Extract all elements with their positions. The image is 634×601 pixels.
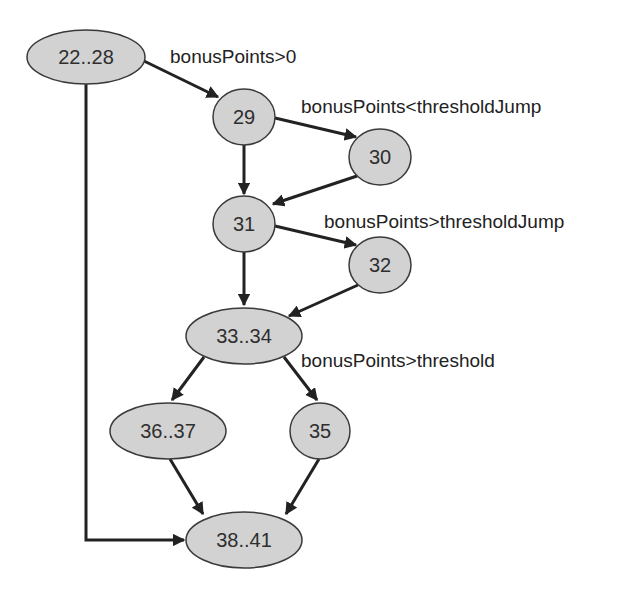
edge-label-bonus-lt-threshold-jump: bonusPoints<thresholdJump [301, 96, 541, 117]
node-29: 29 [213, 89, 275, 145]
edge-29-to-30 [275, 118, 356, 137]
edge-33-34-to-36-37 [172, 357, 204, 400]
edge-30-to-31 [273, 176, 357, 204]
node-label: 36..37 [140, 420, 196, 442]
edge-22-28-to-38-41 [86, 84, 184, 540]
edge-label-bonus-gt-threshold: bonusPoints>threshold [301, 350, 495, 371]
edge-label-bonus-gt-0: bonusPoints>0 [170, 46, 296, 67]
node-36-37: 36..37 [110, 403, 226, 459]
node-32: 32 [349, 237, 411, 293]
node-35: 35 [290, 403, 350, 459]
node-label: 38..41 [216, 529, 272, 551]
node-38-41: 38..41 [186, 512, 302, 568]
node-label: 30 [369, 146, 391, 168]
node-22-28: 22..28 [27, 30, 145, 84]
node-31: 31 [213, 196, 275, 252]
control-flow-graph: bonusPoints>0 bonusPoints<thresholdJump … [0, 0, 634, 601]
node-label: 32 [369, 254, 391, 276]
edge-35-to-38-41 [286, 459, 319, 514]
edge-36-37-to-38-41 [170, 459, 203, 514]
edge-32-to-33-34 [289, 285, 358, 316]
node-33-34: 33..34 [186, 308, 302, 364]
node-label: 33..34 [216, 325, 272, 347]
edge-label-bonus-gt-threshold-jump: bonusPoints>thresholdJump [324, 211, 564, 232]
node-30: 30 [349, 129, 411, 185]
node-label: 35 [309, 420, 331, 442]
node-label: 29 [233, 106, 255, 128]
node-label: 31 [233, 213, 255, 235]
node-label: 22..28 [58, 46, 114, 68]
